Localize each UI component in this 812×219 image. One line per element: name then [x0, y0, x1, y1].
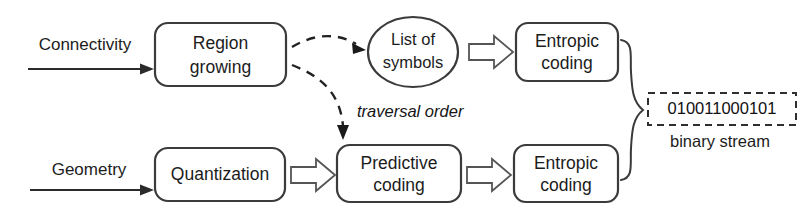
input-connectivity-label: Connectivity	[39, 35, 132, 54]
block-arrow-predictive-to-entropic	[467, 159, 511, 191]
predictive-coding-label-line2: coding	[373, 175, 425, 195]
block-arrow-quantization-to-predictive	[291, 159, 335, 191]
node-list-of-symbols[interactable]: List of symbols	[368, 17, 458, 87]
input-geometry: Geometry	[30, 160, 154, 195]
edge-region-to-symbols	[292, 36, 366, 54]
binary-stream-caption: binary stream	[670, 132, 770, 150]
merge-brace	[621, 40, 643, 180]
predictive-coding-label-line1: Predictive	[361, 153, 438, 173]
binary-stream-bits: 010011000101	[668, 99, 777, 117]
region-growing-label-line2: growing	[190, 57, 251, 77]
edge-traversal-order-curve	[292, 65, 343, 126]
entropic-coding-top-label-line1: Entropic	[535, 31, 599, 51]
geometry-arrow-head	[140, 185, 154, 196]
region-growing-label-line1: Region	[193, 33, 248, 53]
block-arrow-shape	[469, 36, 513, 68]
edge-traversal-order-arrowhead	[337, 125, 349, 140]
input-connectivity: Connectivity	[28, 35, 154, 74]
input-geometry-label: Geometry	[52, 160, 127, 179]
quantization-label: Quantization	[171, 164, 269, 184]
list-of-symbols-ellipse	[368, 17, 458, 87]
list-of-symbols-label-line2: symbols	[383, 53, 444, 71]
merge-brace-path	[621, 40, 643, 180]
edge-traversal-order-label: traversal order	[357, 102, 465, 120]
entropic-coding-bottom-label-line1: Entropic	[534, 153, 598, 173]
block-arrow-shape-2	[291, 159, 335, 191]
node-region-growing[interactable]: Region growing	[155, 23, 286, 86]
entropic-coding-top-label-line2: coding	[541, 53, 593, 73]
block-arrow-symbols-to-entropic	[469, 36, 513, 68]
block-arrow-shape-3	[467, 159, 511, 191]
output-binary-stream: 010011000101 binary stream	[648, 93, 796, 150]
pipeline-diagram: Connectivity Region growing List of symb…	[0, 0, 812, 219]
node-predictive-coding[interactable]: Predictive coding	[337, 145, 461, 202]
node-quantization[interactable]: Quantization	[155, 148, 285, 201]
list-of-symbols-label-line1: List of	[391, 30, 435, 48]
node-entropic-coding-bottom[interactable]: Entropic coding	[514, 145, 618, 202]
node-entropic-coding-top[interactable]: Entropic coding	[516, 23, 618, 81]
edge-region-to-symbols-curve	[292, 36, 356, 47]
connectivity-arrow-head	[140, 64, 154, 75]
entropic-coding-bottom-label-line2: coding	[540, 175, 592, 195]
edge-region-to-symbols-arrowhead	[352, 43, 366, 54]
diagram-canvas: Connectivity Region growing List of symb…	[0, 0, 812, 219]
